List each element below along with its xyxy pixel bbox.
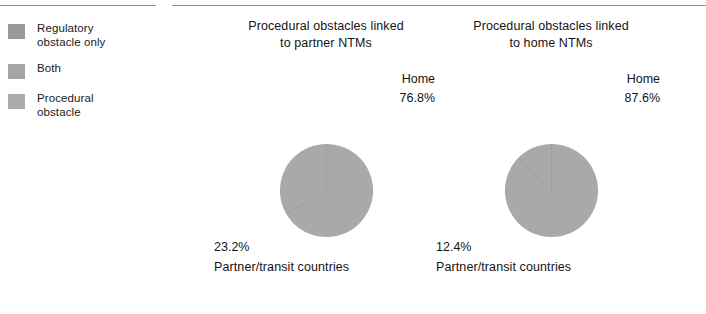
legend-label-regulatory: Regulatory obstacle only <box>37 22 105 49</box>
home-percentage-home-ntms: 87.6% <box>625 89 660 108</box>
partner-percentage-partner-ntms: 23.2% <box>214 240 249 254</box>
pie-chart-partner-ntms <box>279 143 374 238</box>
partner-percentage-home-ntms: 12.4% <box>436 240 471 254</box>
top-rule-right <box>172 5 706 6</box>
pie-svg-partner-ntms <box>279 143 374 238</box>
legend-item-procedural-obstacle: Procedural obstacle <box>8 92 158 119</box>
legend-swatch-icon-regulatory <box>8 24 25 39</box>
home-label-partner-ntms: Home <box>402 70 435 89</box>
legend-swatch-icon-procedural <box>8 94 25 109</box>
home-label-home-ntms: Home <box>627 70 660 89</box>
pie-title-partner-ntms: Procedural obstacles linked to partner N… <box>211 18 441 52</box>
legend-label-both: Both <box>37 62 61 76</box>
legend: Regulatory obstacle only Both Procedural… <box>8 22 158 132</box>
legend-item-both: Both <box>8 62 158 79</box>
home-percentage-partner-ntms: 76.8% <box>400 89 435 108</box>
pie-chart-home-ntms <box>504 143 599 238</box>
pie-svg-home-ntms <box>504 143 599 238</box>
legend-swatch-icon-both <box>8 64 25 79</box>
top-rule-left <box>0 5 156 6</box>
partner-label-home-ntms: Partner/transit countries <box>436 260 571 274</box>
legend-item-regulatory-obstacle-only: Regulatory obstacle only <box>8 22 158 49</box>
pie-panel-partner-ntms: Procedural obstacles linked to partner N… <box>211 18 441 308</box>
pie-panel-home-ntms: Procedural obstacles linked to home NTMs… <box>436 18 666 308</box>
legend-label-procedural: Procedural obstacle <box>37 92 94 119</box>
pie-title-home-ntms: Procedural obstacles linked to home NTMs <box>436 18 666 52</box>
partner-label-partner-ntms: Partner/transit countries <box>214 260 349 274</box>
